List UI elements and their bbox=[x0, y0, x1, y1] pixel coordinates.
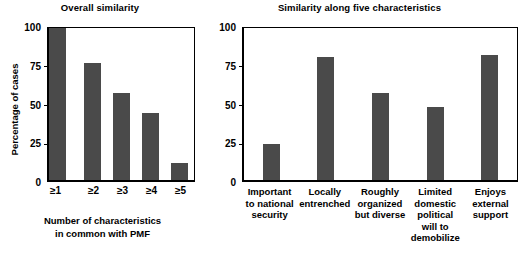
left-xlabel-ge2: ≥2 bbox=[79, 185, 108, 197]
right-xlabel-c3-line5: demobilize bbox=[408, 232, 463, 244]
left-x-axis-title-line1: Number of characteristics bbox=[10, 214, 195, 227]
panel-similarity-five-characteristics: Similarity along five characteristics 10… bbox=[195, 0, 524, 257]
left-bars bbox=[49, 28, 194, 180]
right-xlabel-external-support: Enjoys external support bbox=[463, 186, 518, 244]
right-xlabel-c1-line2: entrenched bbox=[297, 198, 352, 210]
right-bars bbox=[244, 28, 517, 180]
bar-slot-limited-political-will bbox=[408, 28, 463, 180]
right-xlabel-c3-line2: domestic bbox=[408, 198, 463, 210]
right-xlabel-roughly-organized: Roughly organized but diverse bbox=[352, 186, 407, 244]
bar-slot-ge4 bbox=[136, 28, 165, 180]
right-xlabel-locally-entrenched: Locally entrenched bbox=[297, 186, 352, 244]
right-xlabel-c3-line4: will to bbox=[408, 221, 463, 233]
right-xlabel-c0-line1: Important bbox=[242, 186, 297, 198]
bar-slot-ge5 bbox=[165, 28, 194, 180]
left-x-axis-title: Number of characteristics in common with… bbox=[10, 214, 195, 240]
left-plot-area: 100 75 50 25 0 bbox=[47, 27, 195, 182]
bar-ge2 bbox=[84, 63, 101, 180]
bar-slot-locally-entrenched bbox=[299, 28, 354, 180]
bar-ge5 bbox=[171, 163, 188, 180]
right-xlabel-important-national-security: Important to national security bbox=[242, 186, 297, 244]
bar-locally-entrenched bbox=[317, 57, 334, 180]
bar-limited-political-will bbox=[427, 107, 444, 180]
bar-ge3 bbox=[113, 93, 130, 180]
right-chart-title: Similarity along five characteristics bbox=[195, 2, 524, 13]
right-xlabel-limited-political-will: Limited domestic political will to demob… bbox=[408, 186, 463, 244]
left-xlabel-ge4: ≥4 bbox=[137, 185, 166, 197]
y-axis-label: Percentage of cases bbox=[9, 45, 20, 175]
right-xlabel-c0-line2: to national bbox=[242, 198, 297, 210]
right-xlabel-c3-line1: Limited bbox=[408, 186, 463, 198]
right-xlabel-c4-line3: support bbox=[463, 209, 518, 221]
left-xlabel-ge3: ≥3 bbox=[108, 185, 137, 197]
bar-roughly-organized bbox=[372, 93, 389, 180]
right-x-tick-labels: Important to national security Locally e… bbox=[242, 186, 518, 244]
bar-ge4 bbox=[142, 113, 159, 180]
right-xlabel-c2-line2: organized bbox=[352, 198, 407, 210]
right-xlabel-c2-line1: Roughly bbox=[352, 186, 407, 198]
figure-two-panel-bar-charts: Overall similarity Percentage of cases 1… bbox=[0, 0, 524, 257]
right-xlabel-c4-line1: Enjoys bbox=[463, 186, 518, 198]
right-xlabel-c0-line3: security bbox=[242, 209, 297, 221]
bar-slot-roughly-organized bbox=[353, 28, 408, 180]
right-plot-area: 100 75 50 25 0 bbox=[242, 27, 518, 182]
left-chart-title: Overall similarity bbox=[0, 2, 200, 13]
right-xlabel-c1-line1: Locally bbox=[297, 186, 352, 198]
bar-important-national-security bbox=[263, 144, 280, 180]
left-x-axis-title-line2: in common with PMF bbox=[10, 227, 195, 240]
bar-external-support bbox=[481, 55, 498, 180]
left-xlabel-ge5: ≥5 bbox=[166, 185, 195, 197]
bar-slot-ge3 bbox=[107, 28, 136, 180]
panel-overall-similarity: Overall similarity Percentage of cases 1… bbox=[0, 0, 200, 257]
bar-slot-important-national-security bbox=[244, 28, 299, 180]
bar-slot-external-support bbox=[462, 28, 517, 180]
bar-slot-ge1 bbox=[49, 28, 78, 180]
bar-slot-ge2 bbox=[78, 28, 107, 180]
right-xlabel-c3-line3: political bbox=[408, 209, 463, 221]
left-xlabel-ge1: ≥1 bbox=[47, 185, 79, 197]
right-xlabel-c4-line2: external bbox=[463, 198, 518, 210]
bar-ge1 bbox=[49, 28, 66, 180]
right-xlabel-c2-line3: but diverse bbox=[352, 209, 407, 221]
left-x-tick-labels: ≥1 ≥2 ≥3 ≥4 ≥5 bbox=[47, 185, 195, 197]
